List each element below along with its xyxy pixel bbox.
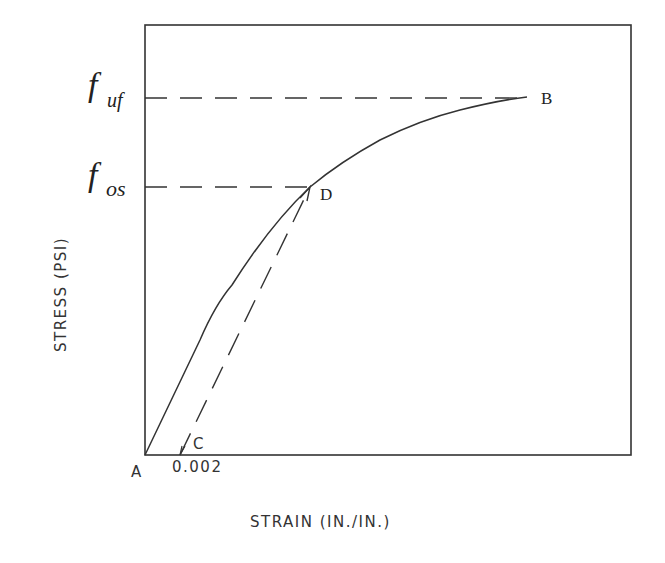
x-axis-title: STRAIN (IN./IN.)	[250, 513, 391, 531]
point-label-d: D	[320, 185, 332, 204]
stress-strain-diagram: A C D B 0.002 f uf f os STRAIN (IN./IN.)…	[0, 0, 665, 563]
point-label-a: A	[131, 463, 142, 481]
fuf-label-main: f	[88, 66, 102, 103]
plot-frame	[145, 25, 631, 455]
y-axis-title: STRESS (PSI)	[52, 237, 70, 352]
fuf-label-sub: uf	[107, 89, 125, 112]
offset-line	[180, 191, 308, 455]
stress-strain-curve	[145, 97, 527, 455]
fos-label-sub: os	[106, 176, 126, 201]
arrow-c-icon	[180, 446, 185, 455]
fos-label-main: f	[88, 156, 102, 193]
point-label-c: C	[193, 435, 203, 453]
x-tick-label: 0.002	[172, 458, 222, 476]
point-label-b: B	[541, 89, 552, 108]
